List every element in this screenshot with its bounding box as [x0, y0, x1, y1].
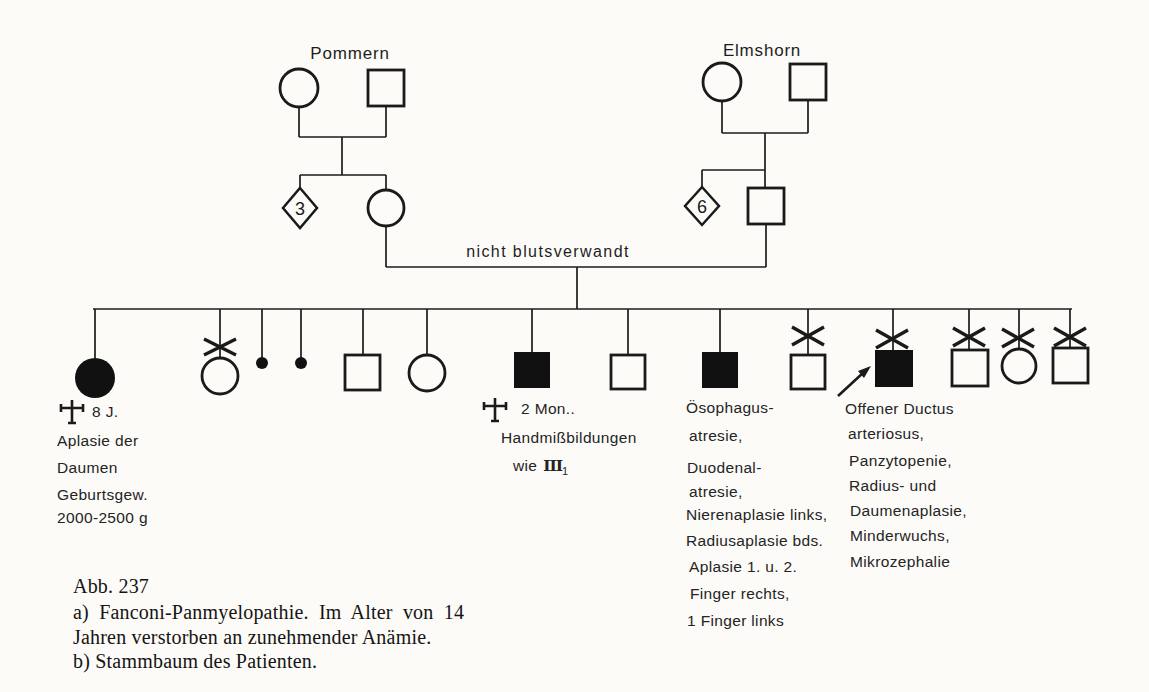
child-13-deceased-x-mark	[1002, 329, 1034, 347]
child-9-note-line: Finger rechts,	[690, 585, 790, 603]
child-11-note-line: Radius- und	[849, 477, 936, 495]
child-13-female-symbol	[1002, 349, 1036, 383]
child-12-male-symbol	[952, 350, 988, 386]
child-7-note-line: Handmißbildungen	[501, 429, 637, 447]
child-11-note-line: Mikrozephalie	[850, 553, 950, 571]
child-5-male-symbol	[345, 355, 380, 390]
child-9-note-line: atresie,	[689, 427, 743, 445]
child-11-note-line: arteriosus,	[848, 425, 924, 443]
child-14-male-symbol	[1053, 348, 1088, 383]
sibs-count-pommern: 3	[295, 199, 305, 219]
child-11-note-line: Daumenaplasie,	[850, 502, 967, 520]
child-11-deceased-x-mark	[876, 330, 908, 348]
child-11-proband-affected-male-symbol	[875, 350, 913, 387]
caption-line-b: b) Stammbaum des Patienten.	[73, 650, 317, 673]
roman-numeral-III: III	[543, 456, 562, 475]
marriage-note: nicht blutsverwandt	[466, 243, 630, 261]
origin-label-pommern: Pommern	[310, 44, 389, 64]
death-cross-icon	[480, 396, 510, 427]
child-9-note-line: atresie,	[689, 483, 743, 501]
child-4-miscarriage-dot	[295, 357, 307, 369]
child-1-note-line: Geburtsgew.	[57, 486, 148, 504]
child-1-note-line: Daumen	[57, 459, 118, 477]
pedigree-diagram: 3 6	[0, 0, 1149, 692]
child-9-note-line: 1 Finger links	[687, 612, 784, 630]
child-7-note-line: wieIII1	[513, 456, 569, 477]
grandfather-pommern-symbol	[368, 70, 404, 106]
child-1-age-at-death: 8 J.	[92, 403, 118, 421]
child-9-note-line: Aplasie 1. u. 2.	[689, 558, 797, 576]
child-10-male-symbol	[791, 355, 825, 389]
grandmother-pommern-symbol	[280, 69, 318, 107]
child-9-note-line: Radiusaplasie bds.	[686, 532, 823, 550]
child-11-note-line: Offener Ductus	[845, 400, 954, 418]
child-11-note-line: Panzytopenie,	[849, 452, 952, 470]
caption-line-a2: Jahren verstorben an zunehmender Anämie.	[73, 626, 431, 649]
origin-label-elmshorn: Elmshorn	[723, 41, 801, 61]
subscript-1: 1	[562, 465, 568, 477]
grandmother-elmshorn-symbol	[703, 63, 741, 101]
child-1-note-line: 2000-2500 g	[57, 509, 148, 527]
child-1-note-line: Aplasie der	[57, 432, 138, 450]
child-6-female-symbol	[409, 355, 445, 391]
grandfather-elmshorn-symbol	[790, 64, 826, 100]
child-9-affected-male-symbol	[702, 352, 738, 388]
child-3-miscarriage-dot	[256, 357, 268, 369]
caption-line-a1: a) Fanconi-Panmyelopathie. Im Alter von …	[73, 601, 464, 624]
book-page: 3 6	[0, 0, 1149, 692]
wie-text: wie	[513, 457, 537, 474]
child-2-female-symbol	[202, 358, 238, 394]
mother-symbol	[368, 190, 404, 226]
death-cross-icon	[58, 398, 86, 429]
child-7-age-at-death: 2 Mon..	[521, 400, 575, 418]
child-11-note-line: Minderwuchs,	[850, 527, 950, 545]
child-9-note-line: Nierenaplasie links,	[686, 506, 827, 524]
child-9-note-line: Ösophagus-	[686, 399, 774, 417]
pedigree-connector-lines	[93, 100, 1072, 358]
child-1-affected-female-symbol	[75, 358, 115, 398]
sibs-count-elmshorn: 6	[697, 197, 707, 217]
child-7-affected-male-symbol	[514, 352, 550, 388]
father-symbol	[748, 188, 784, 224]
proband-arrow-icon	[838, 366, 871, 396]
child-9-note-line: Duodenal-	[687, 459, 762, 477]
figure-number: Abb. 237	[73, 575, 149, 598]
child-8-male-symbol	[611, 355, 645, 389]
